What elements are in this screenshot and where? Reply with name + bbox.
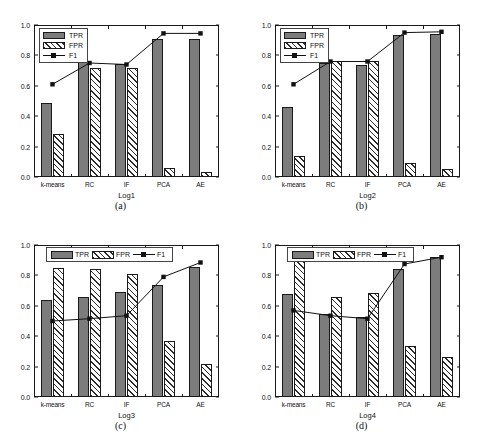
legend-label-f1: F1 bbox=[398, 251, 406, 258]
f1-marker bbox=[365, 59, 369, 63]
x-axis-category-label: PCA bbox=[398, 401, 411, 408]
f1-marker bbox=[365, 317, 369, 321]
chart-legend: TPRFPRF1 bbox=[39, 28, 88, 63]
x-axis-category-label: RC bbox=[85, 181, 94, 188]
y-axis-tick-label: 0.0 bbox=[21, 174, 30, 181]
y-axis-tick-label: 1.0 bbox=[21, 242, 30, 249]
f1-marker bbox=[50, 319, 54, 323]
x-axis-category-label: AE bbox=[196, 181, 204, 188]
legend-swatch-fpr-icon bbox=[284, 42, 306, 49]
y-axis-tick-label: 0.4 bbox=[262, 113, 271, 120]
legend-swatch-tpr-icon bbox=[284, 32, 306, 39]
chart-legend: TPRFPRF1 bbox=[46, 247, 173, 262]
legend-label-fpr: FPR bbox=[69, 42, 83, 49]
f1-marker bbox=[402, 262, 406, 266]
legend-label-f1: F1 bbox=[69, 52, 77, 59]
panel-caption: (d) bbox=[356, 420, 368, 431]
chart-panel-b: 0.00.20.40.60.81.0k-meansRCIFPCAAETPRFPR… bbox=[241, 0, 482, 219]
plot-area: 0.00.20.40.60.81.0k-meansRCIFPCAAETPRFPR… bbox=[275, 245, 460, 397]
legend-swatch-f1-icon bbox=[133, 251, 155, 259]
f1-marker bbox=[124, 314, 128, 318]
x-axis-category-label: AE bbox=[196, 401, 204, 408]
x-axis-category-label: IF bbox=[124, 181, 129, 188]
legend-label-fpr: FPR bbox=[310, 42, 324, 49]
y-axis-tick-label: 0.0 bbox=[262, 174, 271, 181]
legend-label-f1: F1 bbox=[157, 251, 165, 258]
y-axis-tick-label: 1.0 bbox=[262, 22, 271, 29]
f1-marker bbox=[124, 62, 128, 66]
legend-swatch-f1-icon bbox=[374, 251, 396, 259]
y-axis-tick-label: 0.0 bbox=[21, 394, 30, 401]
chart-panel-a: 0.00.20.40.60.81.0k-meansRCIFPCAAETPRFPR… bbox=[0, 0, 241, 219]
x-axis-category-label: PCA bbox=[157, 401, 170, 408]
y-axis-tick-label: 0.8 bbox=[21, 52, 30, 59]
y-axis-tick-label: 0.4 bbox=[21, 333, 30, 340]
x-axis-category-label: IF bbox=[365, 181, 370, 188]
plot-area: 0.00.20.40.60.81.0k-meansRCIFPCAAETPRFPR… bbox=[275, 25, 460, 177]
y-axis-tick-label: 1.0 bbox=[21, 22, 30, 29]
x-axis-category-label: k-means bbox=[282, 401, 306, 408]
legend-swatch-f1-icon bbox=[43, 52, 65, 59]
legend-swatch-fpr-icon bbox=[43, 42, 65, 49]
panel-caption: (b) bbox=[356, 200, 368, 211]
f1-marker bbox=[328, 314, 332, 318]
legend-item-tpr: TPR bbox=[284, 31, 324, 40]
f1-marker bbox=[161, 275, 165, 279]
f1-marker bbox=[161, 31, 165, 35]
plot-area: 0.00.20.40.60.81.0k-meansRCIFPCAAETPRFPR… bbox=[34, 25, 219, 177]
legend-swatch-f1-icon bbox=[284, 52, 306, 59]
plot-area: 0.00.20.40.60.81.0k-meansRCIFPCAAETPRFPR… bbox=[34, 245, 219, 397]
legend-item-f1: F1 bbox=[284, 51, 324, 60]
x-axis-category-label: IF bbox=[365, 401, 370, 408]
panel-caption: (c) bbox=[115, 420, 126, 431]
chart-panel-d: 0.00.20.40.60.81.0k-meansRCIFPCAAETPRFPR… bbox=[241, 220, 482, 439]
figure-grid: 0.00.20.40.60.81.0k-meansRCIFPCAAETPRFPR… bbox=[0, 0, 482, 439]
x-axis-category-label: AE bbox=[437, 401, 445, 408]
y-axis-tick-label: 0.6 bbox=[262, 302, 271, 309]
legend-item-fpr: FPR bbox=[43, 41, 83, 50]
f1-marker bbox=[198, 31, 202, 35]
f1-marker bbox=[50, 82, 54, 86]
f1-marker bbox=[291, 82, 295, 86]
legend-swatch-tpr-icon bbox=[292, 251, 314, 259]
panel-caption: (a) bbox=[115, 200, 126, 211]
y-axis-tick-label: 0.0 bbox=[262, 394, 271, 401]
x-axis-title: Log2 bbox=[359, 191, 376, 200]
chart-legend: TPRFPRF1 bbox=[287, 247, 414, 262]
f1-marker bbox=[439, 255, 443, 259]
legend-label-fpr: FPR bbox=[357, 251, 371, 258]
chart-panel-c: 0.00.20.40.60.81.0k-meansRCIFPCAAETPRFPR… bbox=[0, 220, 241, 439]
y-axis-tick-label: 0.2 bbox=[21, 363, 30, 370]
legend-item-fpr: FPR bbox=[284, 41, 324, 50]
x-axis-category-label: k-means bbox=[41, 401, 65, 408]
f1-marker bbox=[439, 30, 443, 34]
f1-line-series bbox=[275, 245, 460, 397]
f1-marker bbox=[291, 308, 295, 312]
y-axis-tick-label: 0.8 bbox=[21, 272, 30, 279]
y-axis-tick-label: 0.4 bbox=[262, 333, 271, 340]
legend-label-tpr: TPR bbox=[310, 32, 324, 39]
legend-item-tpr: TPR bbox=[43, 31, 83, 40]
y-axis-tick-label: 0.2 bbox=[21, 143, 30, 150]
x-axis-title: Log4 bbox=[359, 411, 376, 420]
legend-label-f1: F1 bbox=[310, 52, 318, 59]
y-axis-tick-label: 0.6 bbox=[21, 302, 30, 309]
legend-label-tpr: TPR bbox=[316, 251, 330, 258]
legend-swatch-tpr-icon bbox=[43, 32, 65, 39]
y-axis-tick-label: 0.8 bbox=[262, 272, 271, 279]
chart-legend: TPRFPRF1 bbox=[280, 28, 329, 63]
y-axis-tick-label: 0.8 bbox=[262, 52, 271, 59]
y-axis-tick-label: 0.6 bbox=[262, 82, 271, 89]
legend-swatch-tpr-icon bbox=[51, 251, 73, 259]
x-axis-category-label: AE bbox=[437, 181, 445, 188]
legend-label-tpr: TPR bbox=[69, 32, 83, 39]
x-axis-category-label: IF bbox=[124, 401, 129, 408]
x-axis-title: Log1 bbox=[118, 191, 135, 200]
x-axis-category-label: PCA bbox=[398, 181, 411, 188]
x-axis-category-label: k-means bbox=[41, 181, 65, 188]
y-axis-tick-label: 1.0 bbox=[262, 242, 271, 249]
x-axis-category-label: RC bbox=[326, 181, 335, 188]
y-axis-tick-label: 0.4 bbox=[21, 113, 30, 120]
x-axis-category-label: PCA bbox=[157, 181, 170, 188]
x-axis-category-label: k-means bbox=[282, 181, 306, 188]
